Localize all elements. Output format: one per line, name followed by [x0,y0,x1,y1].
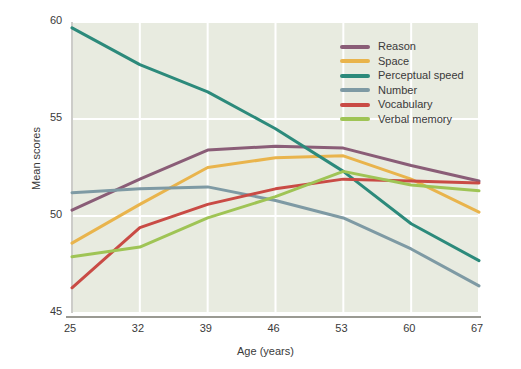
legend-swatch [340,88,370,92]
legend-label: Perceptual speed [378,69,464,82]
x-tick-label: 25 [64,322,76,334]
legend-item-vocabulary[interactable]: Vocabulary [340,98,464,112]
legend-item-perceptual-speed[interactable]: Perceptual speed [340,69,464,83]
y-axis-title: Mean scores [30,127,42,190]
y-tick-label: 45 [50,305,62,317]
legend-swatch [340,59,370,63]
legend-swatch [340,45,370,49]
x-tick-label: 67 [471,322,483,334]
y-tick-label: 55 [50,111,62,123]
legend-label: Vocabulary [378,98,432,111]
legend-label: Reason [378,40,416,53]
legend-swatch [340,103,370,107]
legend-label: Verbal memory [378,113,452,126]
legend: ReasonSpacePerceptual speedNumberVocabul… [340,40,464,126]
x-tick-label: 39 [200,322,212,334]
legend-item-reason[interactable]: Reason [340,40,464,54]
x-tick-label: 60 [403,322,415,334]
x-tick-label: 46 [268,322,280,334]
y-tick-label: 60 [50,14,62,26]
legend-label: Space [378,55,409,68]
legend-item-verbal-memory[interactable]: Verbal memory [340,113,464,127]
legend-label: Number [378,84,417,97]
legend-swatch [340,74,370,78]
figure: 60555045 25323946536067 Mean scores Age … [0,0,521,369]
x-tick-label: 53 [335,322,347,334]
legend-swatch [340,117,370,121]
legend-item-space[interactable]: Space [340,55,464,69]
x-tick-label: 32 [132,322,144,334]
x-axis-title: Age (years) [237,345,294,357]
y-tick-label: 50 [50,208,62,220]
legend-item-number[interactable]: Number [340,84,464,98]
